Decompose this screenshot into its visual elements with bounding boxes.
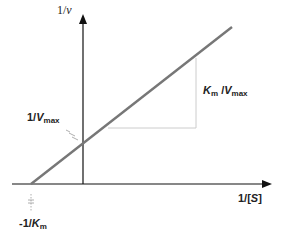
x-intercept-var: K bbox=[32, 217, 40, 229]
x-axis-label: 1/[S] bbox=[238, 192, 262, 204]
y-axis-label-prefix: 1/ bbox=[57, 3, 66, 17]
slope-var1: K bbox=[203, 84, 211, 96]
y-intercept-label: 1/Vmax bbox=[27, 111, 60, 125]
x-intercept-leader bbox=[28, 194, 34, 212]
y-axis-label: 1/ν bbox=[57, 3, 72, 18]
y-intercept-sub: max bbox=[44, 116, 60, 125]
slope-sub1: m bbox=[211, 89, 218, 98]
y-intercept-prefix: 1/ bbox=[27, 111, 36, 123]
x-axis-label-prefix: 1/[ bbox=[238, 192, 251, 204]
y-axis-label-var: ν bbox=[66, 3, 71, 17]
slope-sub2: max bbox=[232, 89, 248, 98]
data-line bbox=[31, 27, 232, 184]
slope-label: Km /Vmax bbox=[203, 84, 248, 98]
slope-var2: V bbox=[224, 84, 231, 96]
x-intercept-label: -1/Km bbox=[19, 217, 47, 231]
y-axis-arrow-icon bbox=[79, 14, 87, 24]
x-axis-label-suffix: ] bbox=[258, 192, 262, 204]
x-intercept-sub: m bbox=[40, 222, 47, 231]
x-axis-arrow-icon bbox=[262, 180, 272, 188]
y-intercept-var: V bbox=[36, 111, 43, 123]
slope-triangle bbox=[108, 58, 196, 128]
x-intercept-prefix: -1/ bbox=[19, 217, 32, 229]
y-intercept-leader bbox=[66, 130, 78, 140]
